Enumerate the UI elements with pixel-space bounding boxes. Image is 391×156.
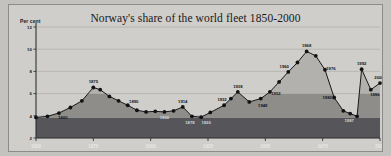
svg-text:1875: 1875 <box>88 144 99 149</box>
svg-text:10: 10 <box>27 47 32 52</box>
svg-text:6: 6 <box>30 91 33 96</box>
svg-text:1952: 1952 <box>271 91 281 96</box>
svg-text:1996: 1996 <box>370 92 380 97</box>
svg-text:1900: 1900 <box>160 115 170 120</box>
svg-text:1850: 1850 <box>31 144 42 149</box>
svg-text:1890: 1890 <box>129 99 139 104</box>
chart-figure: Norway's share of the world fleet 1850-2… <box>0 0 391 156</box>
svg-text:1878: 1878 <box>185 120 195 125</box>
svg-text:8: 8 <box>30 69 33 74</box>
svg-text:1875: 1875 <box>89 79 99 84</box>
svg-text:1968: 1968 <box>302 43 312 48</box>
svg-text:1992: 1992 <box>357 61 367 66</box>
svg-text:2000: 2000 <box>374 75 383 80</box>
plot-area: 1860187518901900191418781920193219381948… <box>9 5 383 152</box>
svg-text:4: 4 <box>30 114 33 119</box>
svg-text:1950: 1950 <box>260 144 271 149</box>
svg-text:1976: 1976 <box>326 66 336 71</box>
x-axis-tick-labels: 1850187519001925195019752000 <box>31 144 383 149</box>
svg-text:1938: 1938 <box>233 84 243 89</box>
svg-text:1975: 1975 <box>318 144 329 149</box>
chart-plate: Norway's share of the world fleet 1850-2… <box>8 4 383 152</box>
svg-text:1948: 1948 <box>258 103 268 108</box>
y-axis-tick-labels: 12108642 <box>27 25 32 141</box>
svg-text:1980: 1980 <box>322 95 332 100</box>
svg-text:1925: 1925 <box>203 144 214 149</box>
svg-text:1920: 1920 <box>201 120 211 125</box>
svg-text:12: 12 <box>27 25 32 30</box>
svg-text:2: 2 <box>30 136 33 141</box>
svg-text:1932: 1932 <box>217 97 227 102</box>
svg-text:1914: 1914 <box>178 99 188 104</box>
svg-text:1900: 1900 <box>146 144 157 149</box>
svg-text:2000: 2000 <box>375 144 383 149</box>
svg-text:1987: 1987 <box>345 118 355 123</box>
svg-text:1860: 1860 <box>58 115 68 120</box>
svg-text:1960: 1960 <box>280 64 290 69</box>
